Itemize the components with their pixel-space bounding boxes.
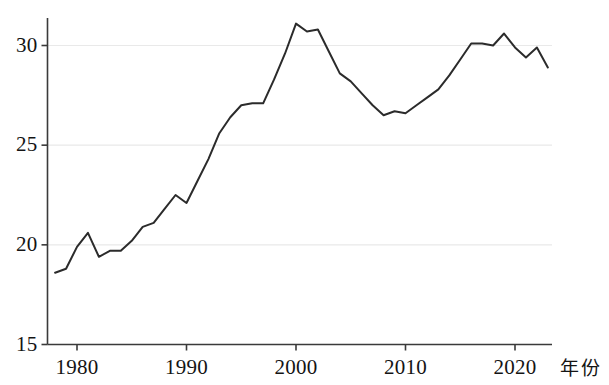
tick-marks-group <box>42 46 516 351</box>
axis-lines-group <box>48 18 553 345</box>
y-tick-label-20: 20 <box>16 234 37 255</box>
y-tick-label-15: 15 <box>16 334 37 355</box>
y-tick-label-25: 25 <box>16 134 37 155</box>
x-tick-label-2010: 2010 <box>376 357 436 378</box>
x-tick-label-1990: 1990 <box>157 357 217 378</box>
x-tick-label-2020: 2020 <box>485 357 545 378</box>
chart-plot-area <box>0 0 609 385</box>
x-axis-title: 年份 <box>560 359 602 378</box>
gridlines-group <box>48 46 553 245</box>
y-tick-label-30: 30 <box>16 35 37 56</box>
line-chart: 15202530 19801990200020102020 年份 <box>0 0 609 385</box>
x-tick-label-2000: 2000 <box>266 357 326 378</box>
x-tick-label-1980: 1980 <box>47 357 107 378</box>
data-line-series-1 <box>55 24 548 273</box>
